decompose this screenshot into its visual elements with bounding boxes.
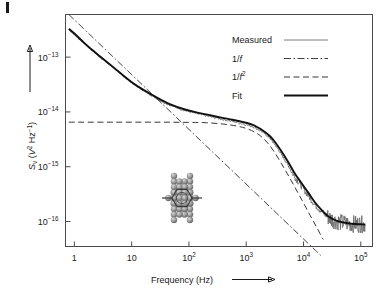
electrode-atom (187, 173, 193, 179)
electrode-atom (187, 217, 193, 223)
x-axis-title: Frequency (Hz) (151, 275, 213, 285)
legend-label-2: 1/f2 (232, 70, 246, 82)
electrode-atom (176, 178, 182, 184)
molecular-junction-inset (162, 173, 202, 223)
y-tick-label-2: 10−15 (38, 160, 59, 172)
x-tick-label-3: 103 (239, 251, 253, 263)
y-tick-label-0: 10−13 (38, 51, 59, 63)
data-series-group (69, 15, 366, 256)
x-tick-label-4: 104 (297, 251, 311, 263)
legend-label-1: 1/f (232, 54, 244, 64)
electrode-atom (171, 217, 177, 223)
x-tick-label-5: 105 (354, 251, 368, 263)
chart-legend: Measured1/f1/f2Fit (232, 35, 328, 101)
y-axis-title-group: Sv (V2 Hz−1) (26, 45, 38, 170)
y-tick-label-3: 10−16 (38, 215, 59, 227)
legend-label-3: Fit (232, 91, 242, 101)
electrode-atom (171, 173, 177, 179)
x-tick-label-0: 1 (72, 253, 77, 263)
x-tick-label-2: 102 (182, 251, 196, 263)
y-tick-label-1: 10−14 (38, 105, 59, 117)
plot-frame (66, 15, 373, 247)
chart-svg: 110102103104105 10−1310−1410−1510−16 Mea… (0, 0, 392, 297)
y-axis-title: Sv (V2 Hz−1) (26, 122, 38, 170)
series-measured (69, 29, 365, 232)
x-tick-label-1: 10 (127, 253, 137, 263)
figure-panel: 110102103104105 10−1310−1410−1510−16 Mea… (0, 0, 392, 297)
x-axis-title-group: Frequency (Hz) (151, 275, 275, 285)
x-axis-ticks: 110102103104105 (72, 242, 368, 263)
legend-label-0: Measured (232, 35, 272, 45)
series-1f (69, 15, 321, 256)
electrode-atom (176, 211, 182, 217)
